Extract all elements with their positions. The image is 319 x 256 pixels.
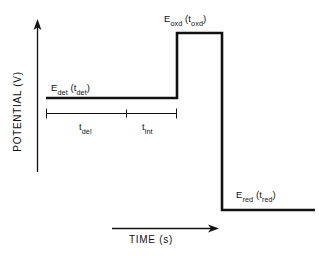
x-axis-title: TIME (s): [129, 234, 173, 245]
label-e-red: Ered (tred): [236, 190, 276, 200]
label-e-red-paren-sub: red: [262, 195, 273, 204]
label-e-oxd: Eoxd (toxd): [164, 14, 206, 24]
x-axis-arrow: [112, 224, 219, 232]
waveform-canvas: [0, 0, 319, 256]
label-e-oxd-sub: oxd: [170, 19, 182, 28]
label-e-det-paren-sub: det: [77, 88, 87, 97]
potential-waveform-figure: POTENTIAL (V) TIME (s) Edet (tdet) Eoxd …: [0, 0, 319, 256]
y-axis-title: POTENTIAL (V): [12, 62, 23, 162]
label-t-del-sub: del: [82, 127, 92, 136]
label-t-int-sub: int: [145, 127, 153, 136]
y-axis: [34, 19, 42, 172]
label-e-det: Edet (tdet): [51, 83, 90, 93]
label-e-oxd-paren-sub: oxd: [191, 19, 203, 28]
label-e-red-sub: red: [242, 195, 253, 204]
pulse-timing-bracket: [46, 109, 177, 119]
label-e-det-sub: det: [57, 88, 67, 97]
label-t-int: tint: [142, 122, 153, 132]
label-t-del: tdel: [79, 122, 92, 132]
